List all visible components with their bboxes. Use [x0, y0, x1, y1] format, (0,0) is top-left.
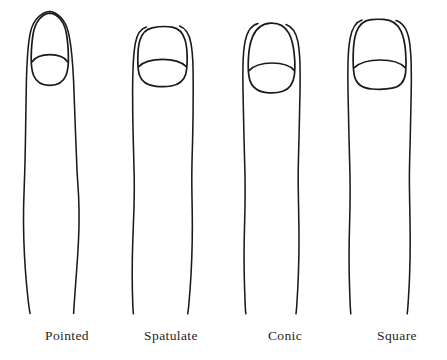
caption-conic: Conic: [234, 328, 336, 344]
caption-spatulate: Spatulate: [120, 328, 222, 344]
caption-pointed: Pointed: [16, 328, 118, 344]
caption-square: Square: [346, 328, 447, 344]
fingertip-shapes-figure: Pointed Spatulate Conic Square: [0, 0, 447, 360]
captions: Pointed Spatulate Conic Square: [0, 0, 447, 360]
